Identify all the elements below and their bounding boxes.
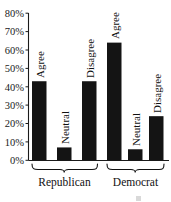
- group-label-republican: Republican: [38, 176, 91, 189]
- brace-republican: [32, 164, 98, 173]
- y-tick-label: 0%: [10, 155, 24, 166]
- bar-value-labels: Agree Neutral Disagree Agree Neutral Dis…: [34, 12, 163, 146]
- y-tick-label: 30%: [5, 100, 25, 111]
- y-tick-label: 20%: [5, 118, 25, 129]
- y-tick-label: 70%: [5, 26, 25, 37]
- bar-label-democrat-agree: Agree: [109, 12, 121, 39]
- y-tick-label: 80%: [5, 8, 25, 19]
- bar-label-democrat-disagree: Disagree: [151, 74, 163, 113]
- bar-democrat-disagree: [149, 116, 164, 160]
- bar-democrat-agree: [107, 43, 122, 161]
- bar-republican-disagree: [82, 81, 97, 160]
- y-tick-label: 60%: [5, 45, 25, 56]
- chart-canvas: 80% 70% 60% 50% 40% 30% 20% 10% 0%: [0, 0, 171, 202]
- bar-label-republican-neutral: Neutral: [59, 111, 71, 144]
- bar-democrat-neutral: [128, 149, 143, 160]
- bar-label-republican-agree: Agree: [34, 51, 46, 78]
- bar-republican-agree: [32, 81, 47, 160]
- brace-democrat: [107, 164, 164, 173]
- y-tick-label: 40%: [5, 82, 25, 93]
- scan-artifact: [136, 196, 141, 201]
- bar-label-republican-disagree: Disagree: [84, 39, 96, 78]
- bar-chart: 80% 70% 60% 50% 40% 30% 20% 10% 0%: [0, 0, 171, 202]
- y-tick-label: 50%: [5, 63, 25, 74]
- group-label-democrat: Democrat: [113, 176, 159, 188]
- y-axis-tick-labels: 80% 70% 60% 50% 40% 30% 20% 10% 0%: [5, 8, 25, 166]
- y-tick-label: 10%: [5, 137, 25, 148]
- bar-label-democrat-neutral: Neutral: [130, 113, 142, 146]
- bar-republican-neutral: [57, 147, 72, 160]
